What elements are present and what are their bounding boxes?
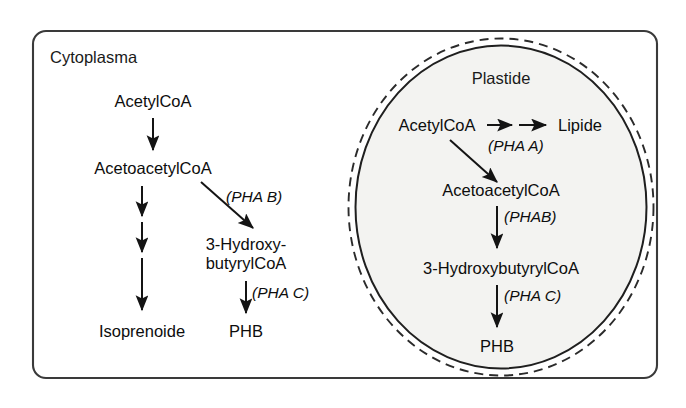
plastid-enzyme-label-pha-a: (PHA A) <box>488 137 544 154</box>
cytoplasm-label: Cytoplasma <box>50 48 138 66</box>
enzyme-label-pha-b: (PHA B) <box>226 188 282 205</box>
plastid-label: Plastide <box>472 69 531 87</box>
metabolite-isoprenoide: Isoprenoide <box>99 322 185 340</box>
plastid-inner-membrane <box>356 46 647 369</box>
plastid-metabolite-phb: PHB <box>480 337 514 355</box>
metabolite-acetoacetylcoa: AcetoacetylCoA <box>94 159 211 177</box>
plastid-enzyme-label-pha-c: (PHA C) <box>504 287 561 304</box>
plastid-metabolite-acetylcoa: AcetylCoA <box>398 116 475 134</box>
plastid-metabolite-hydroxybutyrylcoa: 3-HydroxybutyrylCoA <box>423 259 579 277</box>
metabolite-phb: PHB <box>229 322 263 340</box>
plastid-metabolite-lipide: Lipide <box>558 116 602 134</box>
metabolite-hydroxybutyrylcoa-line1: 3-Hydroxy- <box>206 235 287 253</box>
metabolite-acetylcoa: AcetylCoA <box>114 92 191 110</box>
plastid-enzyme-label-pha-b: (PHAB) <box>504 208 557 225</box>
pathway-canvas: Cytoplasma Plastide AcetylCoA Acetoacety… <box>0 0 686 408</box>
enzyme-label-pha-c: (PHA C) <box>252 284 309 301</box>
pathway-diagram: Cytoplasma Plastide AcetylCoA Acetoacety… <box>0 0 686 408</box>
metabolite-hydroxybutyrylcoa-line2: butyrylCoA <box>206 254 287 272</box>
plastid-metabolite-acetoacetylcoa: AcetoacetylCoA <box>442 181 559 199</box>
